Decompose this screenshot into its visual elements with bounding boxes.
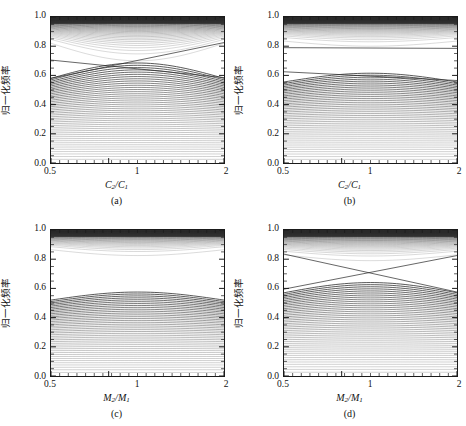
lower-band-curve: [51, 122, 224, 124]
y-ticks-d: 0.0 0.2 0.4 0.6 0.8 1.0: [247, 213, 279, 393]
y-tick-1: 0.2: [251, 341, 279, 351]
x-axis-label-b: C2/C1: [233, 179, 466, 191]
figure-container: 归一化频率 0.0 0.2 0.4 0.6 0.8 1.0 0.5 1 2 C2…: [0, 0, 466, 426]
lower-band-curve: [51, 128, 224, 129]
lower-band-curve: [284, 127, 457, 128]
y-tick-4: 0.8: [251, 253, 279, 263]
x-tick-2: 2: [446, 166, 466, 176]
lower-band-curve: [51, 337, 224, 338]
y-tick-2: 0.4: [18, 312, 46, 322]
lower-band-curve: [51, 343, 224, 344]
lower-band-curve: [284, 121, 457, 122]
panel-label-d: (d): [233, 408, 466, 419]
y-axis-label-d: 归一化频率: [231, 253, 245, 353]
lower-band-curve: [284, 329, 457, 331]
y-ticks-a: 0.0 0.2 0.4 0.6 0.8 1.0: [14, 0, 46, 180]
lower-band-curve: [284, 343, 457, 344]
band-structure-d: [284, 230, 457, 376]
x-axis-label-c: M2/M1: [0, 392, 233, 404]
x-tick-0: 0.5: [270, 166, 296, 176]
lower-band-curve: [284, 123, 457, 124]
x-tick-0: 0.5: [270, 379, 296, 389]
lower-band-curve: [51, 345, 224, 346]
lower-band-curve: [51, 339, 224, 340]
y-ticks-b: 0.0 0.2 0.4 0.6 0.8 1.0: [247, 0, 279, 180]
lower-band-curve: [284, 319, 457, 322]
lower-band-curve: [284, 104, 457, 107]
lower-band-curve: [51, 112, 224, 115]
lower-band-curve: [51, 134, 224, 135]
lower-band-curve: [51, 132, 224, 133]
lower-band-curve: [51, 335, 224, 336]
y-tick-5: 1.0: [18, 223, 46, 233]
panel-label-a: (a): [0, 195, 233, 206]
panel-b: 归一化频率 0.0 0.2 0.4 0.6 0.8 1.0 0.5 1 2 C2…: [233, 0, 466, 213]
y-tick-5: 1.0: [251, 223, 279, 233]
lower-band-curve: [284, 345, 457, 346]
lower-band-curve: [51, 319, 224, 322]
lower-band-curve: [51, 126, 224, 127]
lower-band-curve: [284, 131, 457, 132]
lower-band-curve: [51, 341, 224, 342]
lower-band-curve: [284, 333, 457, 334]
lower-band-curve: [284, 341, 457, 342]
x-tick-2: 2: [446, 379, 466, 389]
lower-band-curve: [51, 331, 224, 332]
lower-band-curve: [284, 331, 457, 333]
lower-band-curve: [51, 120, 224, 122]
y-tick-1: 0.2: [18, 341, 46, 351]
y-tick-4: 0.8: [251, 40, 279, 50]
x-axis-label-a: C2/C1: [0, 179, 233, 191]
y-tick-2: 0.4: [18, 99, 46, 109]
panel-label-c: (c): [0, 408, 233, 419]
band-structure-b: [284, 17, 457, 163]
x-tick-1: 1: [357, 379, 383, 389]
plot-area-a: [50, 16, 225, 164]
panel-d: 归一化频率 0.0 0.2 0.4 0.6 0.8 1.0 0.5 1 2 M2…: [233, 213, 466, 426]
x-tick-0: 0.5: [37, 166, 63, 176]
y-axis-label-c: 归一化频率: [0, 253, 12, 353]
y-tick-3: 0.6: [18, 282, 46, 292]
lower-band-curve: [284, 125, 457, 126]
plot-area-d: [283, 229, 458, 377]
band-curves-b: [284, 17, 457, 159]
x-tick-1: 1: [357, 166, 383, 176]
lower-band-curve: [284, 335, 457, 336]
x-tick-1: 1: [124, 379, 150, 389]
band-curves-c: [51, 230, 224, 372]
plot-area-c: [50, 229, 225, 377]
y-tick-3: 0.6: [251, 282, 279, 292]
panel-label-b: (b): [233, 195, 466, 206]
panel-c: 归一化频率 0.0 0.2 0.4 0.6 0.8 1.0 0.5 1 2 M2…: [0, 213, 233, 426]
lower-band-curve: [284, 115, 457, 117]
y-ticks-c: 0.0 0.2 0.4 0.6 0.8 1.0: [14, 213, 46, 393]
band-structure-c: [51, 230, 224, 376]
y-tick-1: 0.2: [251, 128, 279, 138]
defect-upper-flat: [284, 48, 457, 49]
lower-band-curve: [284, 117, 457, 118]
y-tick-5: 1.0: [18, 10, 46, 20]
y-tick-3: 0.6: [251, 69, 279, 79]
lower-band-curve: [51, 110, 224, 113]
lower-band-curve: [51, 130, 224, 131]
lower-band-curve: [284, 129, 457, 130]
y-tick-4: 0.8: [18, 253, 46, 263]
y-tick-4: 0.8: [18, 40, 46, 50]
lower-band-curve: [51, 124, 224, 125]
band-structure-a: [51, 17, 224, 163]
lower-band-curve: [284, 337, 457, 338]
band-curves-a: [51, 17, 224, 159]
x-axis-label-d: M2/M1: [233, 392, 466, 404]
band-curves-d: [284, 230, 457, 372]
y-tick-2: 0.4: [251, 312, 279, 322]
upper-band-curve: [51, 250, 224, 256]
lower-band-curve: [284, 114, 457, 116]
lower-band-curve: [51, 320, 224, 323]
plot-area-b: [283, 16, 458, 164]
lower-band-curve: [284, 339, 457, 340]
lower-band-curve: [284, 327, 457, 329]
lower-band-curve: [51, 330, 224, 332]
panel-a: 归一化频率 0.0 0.2 0.4 0.6 0.8 1.0 0.5 1 2 C2…: [0, 0, 233, 213]
lower-band-curve: [284, 317, 457, 320]
y-axis-label-a: 归一化频率: [0, 40, 12, 140]
